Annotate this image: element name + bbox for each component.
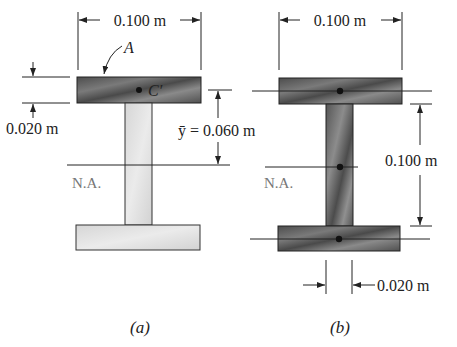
flange-thickness-dimension-a: 0.020 m <box>6 62 70 137</box>
height-label-b: 0.100 m <box>385 152 438 169</box>
top-flange-centroid-dot-b <box>337 88 343 94</box>
top-width-dimension-a: 0.100 m <box>78 12 201 70</box>
diagram-canvas: 0.100 m A C′ 0.020 m ȳ = 0.060 m <box>0 0 457 347</box>
top-width-label-a: 0.100 m <box>114 12 167 29</box>
ybar-label-a: ȳ = 0.060 m <box>178 122 256 140</box>
bottom-flange-a <box>76 225 200 250</box>
centroid-label-a: C′ <box>148 82 163 99</box>
caption-b: (b) <box>330 318 350 337</box>
figure-a: 0.100 m A C′ 0.020 m ȳ = 0.060 m <box>6 12 256 337</box>
centroid-dot-a <box>136 87 142 93</box>
height-dimension-b: 0.100 m <box>385 104 438 226</box>
figure-b: 0.100 m 0.100 m N.A. 0.020 m <box>250 12 438 337</box>
caption-a: (a) <box>130 318 150 337</box>
neutral-axis-label-b: N.A. <box>264 175 293 191</box>
web-centroid-dot-b <box>337 164 343 170</box>
neutral-axis-label-a: N.A. <box>72 175 101 191</box>
bottom-flange-centroid-dot-b <box>336 236 342 242</box>
top-width-label-b: 0.100 m <box>314 12 367 29</box>
flange-thickness-label-a: 0.020 m <box>6 120 59 137</box>
area-label-a: A <box>104 39 134 74</box>
web-a <box>125 103 152 225</box>
top-width-dimension-b: 0.100 m <box>279 12 402 70</box>
svg-text:A: A <box>123 39 134 56</box>
web-thickness-label-b: 0.020 m <box>377 277 430 294</box>
web-thickness-dimension-b: 0.020 m <box>303 260 430 294</box>
